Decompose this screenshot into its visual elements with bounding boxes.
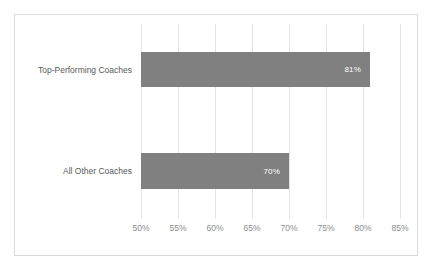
plot-area: Top-Performing Coaches 81% All Other Coa… <box>141 24 400 219</box>
bar-category-label-1: All Other Coaches <box>63 166 132 176</box>
bar-value-label-1: 70% <box>263 167 289 176</box>
x-tick-label-65: 65% <box>243 223 260 233</box>
bar-all-other-coaches[interactable]: All Other Coaches 70% <box>141 153 289 189</box>
bar-category-label-0: Top-Performing Coaches <box>38 65 132 75</box>
bar-top-performing-coaches[interactable]: Top-Performing Coaches 81% <box>141 52 370 87</box>
x-tick-label-55: 55% <box>169 223 186 233</box>
bar-value-label-0: 81% <box>344 65 370 74</box>
x-tick-label-85: 85% <box>391 223 408 233</box>
x-tick-label-60: 60% <box>206 223 223 233</box>
chart-frame: Top-Performing Coaches 81% All Other Coa… <box>14 14 418 256</box>
x-axis: 50% 55% 60% 65% 70% 75% 80% 85% <box>141 223 400 241</box>
x-tick-label-70: 70% <box>280 223 297 233</box>
gridline-85 <box>400 24 401 219</box>
x-tick-label-75: 75% <box>317 223 334 233</box>
x-tick-label-50: 50% <box>132 223 149 233</box>
x-tick-label-80: 80% <box>354 223 371 233</box>
